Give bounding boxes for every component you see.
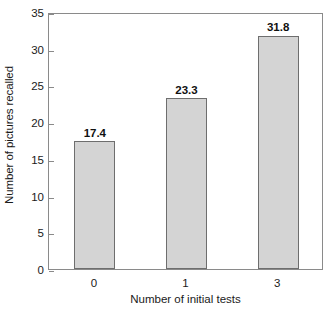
x-axis-tick-label: 3 bbox=[247, 277, 307, 289]
y-axis-tick-mark bbox=[49, 234, 54, 235]
x-axis-title: Number of initial tests bbox=[48, 293, 323, 306]
y-axis-tick-label: 20 bbox=[18, 118, 44, 128]
y-axis-tick-label: 10 bbox=[18, 192, 44, 202]
bar bbox=[74, 141, 115, 269]
x-axis-title-text: Number of initial tests bbox=[130, 293, 241, 305]
y-axis-tick-label: 5 bbox=[18, 228, 44, 238]
x-axis-tick-label: 0 bbox=[64, 277, 124, 289]
y-axis-tick-label: 0 bbox=[18, 265, 44, 275]
y-axis-tick-label: 15 bbox=[18, 155, 44, 165]
bar bbox=[258, 36, 299, 270]
y-axis-tick-mark bbox=[49, 198, 54, 199]
y-axis-tick-label: 30 bbox=[18, 45, 44, 55]
y-axis-tick-mark bbox=[49, 271, 54, 272]
y-axis-tick-labels: 05101520253035 bbox=[14, 0, 44, 311]
y-axis-tick-mark bbox=[49, 51, 54, 52]
bar-chart: Number of pictures recalled 051015202530… bbox=[0, 0, 334, 311]
bar-value-label: 17.4 bbox=[65, 127, 125, 139]
bar bbox=[166, 98, 207, 269]
x-axis-tick-label: 1 bbox=[156, 277, 216, 289]
y-axis-tick-label: 25 bbox=[18, 81, 44, 91]
bar-value-label: 23.3 bbox=[157, 84, 217, 96]
y-axis-tick-mark bbox=[49, 124, 54, 125]
y-axis-tick-label: 35 bbox=[18, 8, 44, 18]
y-axis-tick-mark bbox=[49, 87, 54, 88]
y-axis-tick-mark bbox=[49, 161, 54, 162]
plot-area: 17.423.331.8 bbox=[48, 13, 323, 270]
y-axis-tick-mark bbox=[49, 14, 54, 15]
bar-value-label: 31.8 bbox=[248, 21, 308, 33]
